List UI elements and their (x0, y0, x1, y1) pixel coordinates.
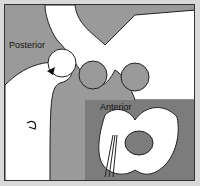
diagram-panel: Posterior Anterior (4, 4, 195, 181)
obturator-foramen-right (121, 63, 149, 91)
label-anterior: Anterior (100, 102, 132, 112)
hip-illustration (5, 5, 195, 181)
femur-bone (5, 62, 72, 181)
label-posterior: Posterior (9, 40, 45, 50)
hip-anatomy-diagram: Posterior Anterior (0, 0, 200, 186)
pelvic-inlet (125, 131, 153, 155)
obturator-foramen-left (79, 61, 107, 89)
